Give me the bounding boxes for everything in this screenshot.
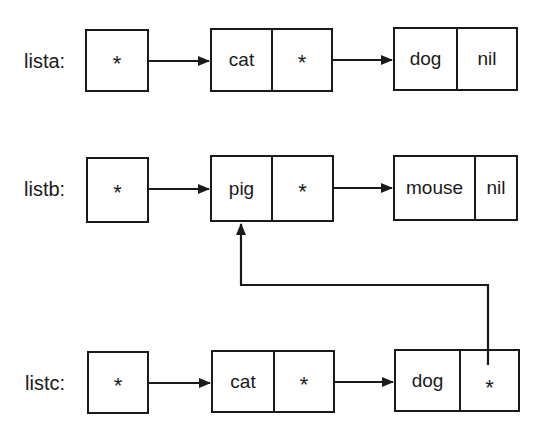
- cdr-pointer: *: [273, 157, 332, 220]
- listb-cell-pig: pig *: [210, 155, 334, 222]
- lista-cell-cat: cat *: [210, 28, 333, 92]
- listc-head-pointer-box: *: [87, 351, 149, 414]
- label-lista: lista:: [24, 51, 65, 71]
- label-listb: listb:: [24, 179, 65, 199]
- listb-head-pointer-box: *: [86, 157, 149, 223]
- cdr-pointer: *: [273, 30, 331, 90]
- pointer-asterisk: *: [87, 31, 147, 90]
- listc-cell-dog: dog *: [394, 349, 520, 412]
- cdr-pointer: *: [461, 351, 518, 410]
- pointer-asterisk: *: [88, 159, 147, 221]
- label-listc: listc:: [25, 373, 65, 393]
- car-value: dog: [396, 351, 461, 410]
- car-value: dog: [395, 29, 458, 89]
- listc-cell-cat: cat *: [211, 350, 335, 413]
- car-value: mouse: [395, 157, 476, 219]
- lista-cell-dog: dog nil: [393, 27, 518, 91]
- lista-head-pointer-box: *: [85, 29, 149, 92]
- car-value: pig: [212, 157, 273, 220]
- arrow-listc-dog-cdr-to-listb-pig: [241, 224, 488, 365]
- car-value: cat: [213, 352, 275, 411]
- cdr-nil: nil: [476, 157, 516, 219]
- cdr-pointer: *: [275, 352, 333, 411]
- listb-cell-mouse: mouse nil: [393, 155, 518, 221]
- cdr-nil: nil: [458, 29, 516, 89]
- car-value: cat: [212, 30, 273, 90]
- pointer-asterisk: *: [89, 353, 147, 412]
